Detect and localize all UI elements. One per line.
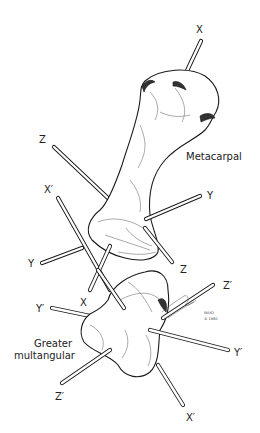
axis-label-y-upper-right: Y bbox=[206, 190, 214, 201]
metacarpal-label: Metacarpal bbox=[186, 151, 242, 162]
axis-label-y-left: Y bbox=[27, 258, 35, 269]
axis-label-y-prime-right: Y′ bbox=[233, 347, 243, 358]
signature-line-2: © 1980 bbox=[204, 317, 218, 321]
axis-label-y-prime-left: Y′ bbox=[35, 303, 45, 314]
metacarpal-bone bbox=[88, 70, 218, 260]
axis-label-x-prime-left: X′ bbox=[44, 184, 54, 195]
trapeziometacarpal-axes-illustration: MAYO © 1980 Metacarpal Greater multangul… bbox=[0, 0, 260, 433]
axis-label-z-mid-right: Z bbox=[180, 264, 187, 275]
greater-multangular-label-line1: Greater bbox=[34, 338, 73, 349]
axis-label-z-upper-left: Z bbox=[39, 134, 46, 145]
axis-label-z-prime-bottom: Z′ bbox=[55, 391, 65, 402]
axis-label-x-mid: X bbox=[80, 297, 87, 308]
axis-label-z-prime-right: Z′ bbox=[223, 280, 233, 291]
greater-multangular-label-line2: multangular bbox=[14, 350, 76, 361]
axis-label-x-top: X bbox=[196, 24, 203, 35]
signature-line-1: MAYO bbox=[204, 311, 214, 315]
axis-label-x-prime-bottom: X′ bbox=[186, 412, 196, 423]
